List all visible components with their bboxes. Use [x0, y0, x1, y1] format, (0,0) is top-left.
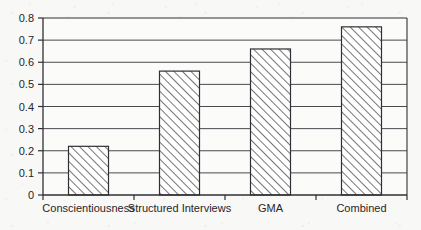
x-axis-tick-labels: ConscientiousnessStructured InterviewsGM…	[42, 202, 386, 214]
bar-chart-figure: 00.10.20.30.40.50.60.70.8 Conscientiousn…	[0, 0, 421, 230]
bar-rect	[251, 49, 291, 195]
bar-rect	[342, 27, 382, 195]
y-axis-tick-label: 0.8	[19, 12, 34, 24]
y-axis-tick-label: 0.2	[19, 145, 34, 157]
y-axis-ticks	[38, 18, 43, 195]
bar	[69, 146, 109, 195]
x-axis-tick-label: Structured Interviews	[128, 202, 232, 214]
bar	[251, 49, 291, 195]
bar-rect	[160, 71, 200, 195]
chart-canvas: 00.10.20.30.40.50.60.70.8 Conscientiousn…	[0, 0, 421, 230]
y-axis-tick-label: 0.4	[19, 101, 34, 113]
x-axis-tick-label: GMA	[258, 202, 284, 214]
bar	[342, 27, 382, 195]
y-axis-tick-labels: 00.10.20.30.40.50.60.70.8	[19, 12, 34, 201]
y-axis-tick-label: 0.5	[19, 78, 34, 90]
x-axis-tick-label: Conscientiousness	[42, 202, 135, 214]
x-axis-ticks	[43, 195, 407, 200]
x-axis-tick-label: Combined	[336, 202, 386, 214]
bar-rect	[69, 146, 109, 195]
y-axis-tick-label: 0.1	[19, 167, 34, 179]
y-axis-tick-label: 0.3	[19, 123, 34, 135]
y-axis-tick-label: 0	[28, 189, 34, 201]
y-axis-tick-label: 0.6	[19, 56, 34, 68]
bar	[160, 71, 200, 195]
y-axis-tick-label: 0.7	[19, 34, 34, 46]
